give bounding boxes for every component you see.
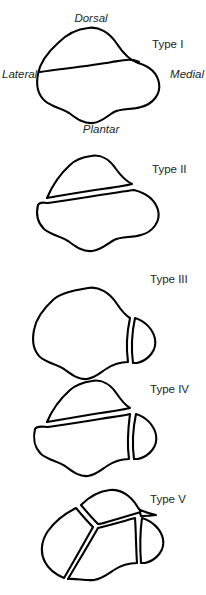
type-label-1: Type I [152, 38, 183, 50]
panel-type-2: Type II [37, 156, 186, 251]
fracture-classification-figure: Dorsal Lateral Medial Plantar Type I Typ… [0, 0, 206, 595]
label-dorsal: Dorsal [74, 12, 108, 24]
panel-type-3: Type III [33, 273, 188, 379]
type-label-3: Type III [150, 273, 188, 285]
bone-body-type-3 [33, 288, 130, 379]
panel-type-4: Type IV [34, 381, 189, 476]
bone-body-type-4 [34, 414, 130, 476]
label-plantar: Plantar [83, 123, 121, 135]
panel-type-1: Dorsal Lateral Medial Plantar Type I [2, 12, 204, 135]
bone-outline-type-1 [37, 28, 159, 123]
type-label-4: Type IV [150, 383, 189, 395]
panel-type-5: Type V [42, 490, 186, 580]
bone-body-type-2 [37, 190, 159, 251]
medial-fragment-type-5 [140, 518, 163, 563]
type-label-5: Type V [150, 493, 186, 505]
type-label-2: Type II [152, 163, 187, 175]
medial-fragment-type-4 [133, 414, 156, 459]
medial-fragment-type-3 [132, 318, 155, 363]
label-medial: Medial [170, 68, 204, 80]
label-lateral: Lateral [2, 68, 38, 80]
wedge-fragment-type-5 [140, 510, 156, 516]
